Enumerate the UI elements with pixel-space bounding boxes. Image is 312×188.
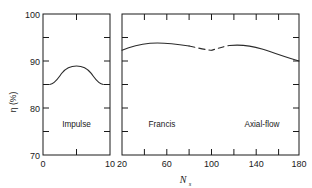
x-tick-label-100: 100 [204, 159, 219, 169]
y-tick-label-90: 90 [30, 57, 40, 67]
figure-container: 100 90 80 70 η (%) [0, 0, 312, 188]
efficiency-vs-specific-speed-chart: 100 90 80 70 η (%) [0, 0, 312, 188]
y-tick-label-70: 70 [30, 151, 40, 161]
x-tick-label-180: 180 [291, 159, 306, 169]
x-tick-label-140: 140 [249, 159, 264, 169]
y-axis-title: η (%) [8, 92, 18, 113]
y-tick-label-100: 100 [25, 10, 40, 20]
x-tick-label-60: 60 [162, 159, 172, 169]
region-label-impulse: Impulse [62, 120, 91, 129]
x-tick-label-0: 0 [40, 159, 45, 169]
region-label-francis: Francis [149, 120, 176, 129]
region-label-axial-flow: Axial-flow [244, 120, 279, 129]
x-tick-label-20: 20 [117, 159, 127, 169]
chart-background [0, 0, 312, 188]
x-axis-title-main: N [179, 174, 188, 185]
y-tick-label-80: 80 [30, 104, 40, 114]
x-tick-label-10: 10 [105, 159, 115, 169]
y-axis-title-text: η (%) [8, 92, 18, 113]
